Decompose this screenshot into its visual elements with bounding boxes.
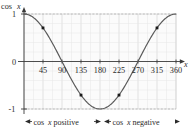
x-tick-label-360: 360 xyxy=(170,66,182,75)
y-axis-label-variable: x xyxy=(16,2,21,11)
y-tick-label-neg1: -1 xyxy=(9,105,16,114)
data-point-315 xyxy=(156,27,159,30)
annotation-positive-variable: x xyxy=(47,118,52,127)
data-point-45 xyxy=(42,27,45,30)
annotation-positive-prefix: cos xyxy=(34,118,45,127)
annotation-negative-variable: x xyxy=(126,118,131,127)
x-tick-label-315: 315 xyxy=(151,66,163,75)
arrow-right-icon xyxy=(96,119,101,123)
arrow-right-icon xyxy=(175,119,180,123)
y-axis-arrow-icon xyxy=(22,7,26,12)
cosine-graph-figure: cos x x 1 0 -1 45 90 135 180 225 270 315… xyxy=(0,0,195,131)
annotation-positive-suffix: positive xyxy=(54,118,80,127)
x-tick-label-45: 45 xyxy=(39,66,47,75)
x-tick-label-135: 135 xyxy=(75,66,87,75)
y-tick-label-1: 1 xyxy=(12,10,16,19)
annotation-negative-suffix: negative xyxy=(133,118,161,127)
cosine-chart-svg: cos x x 1 0 -1 45 90 135 180 225 270 315… xyxy=(0,0,195,131)
annotation-positive-range: cos x positive xyxy=(25,115,101,128)
arrow-left-icon xyxy=(104,119,109,123)
data-point-225 xyxy=(118,94,121,97)
y-axis-label-cos: cos xyxy=(1,2,12,11)
arrow-left-icon xyxy=(25,119,30,123)
y-tick-label-0: 0 xyxy=(12,58,16,67)
annotation-negative-prefix: cos xyxy=(113,118,124,127)
x-tick-label-270: 270 xyxy=(132,66,144,75)
x-tick-label-225: 225 xyxy=(113,66,125,75)
x-axis-label-variable: x xyxy=(183,60,188,69)
x-tick-label-90: 90 xyxy=(58,66,66,75)
data-point-135 xyxy=(80,94,83,97)
annotation-negative-range: cos x negative xyxy=(104,115,180,128)
x-tick-label-180: 180 xyxy=(94,66,106,75)
